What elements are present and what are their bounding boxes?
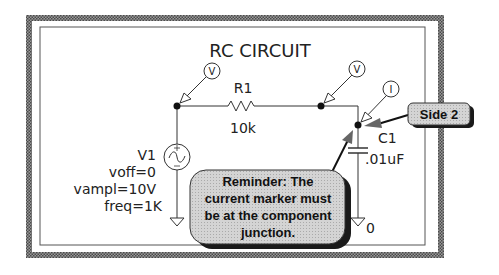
outer-frame: [26, 15, 194, 258]
c1-value-label: .01uF: [365, 151, 404, 167]
reminder-callout: Reminder: The current marker must be at …: [190, 130, 353, 249]
voltage-marker-left[interactable]: V: [180, 63, 220, 103]
reminder-line-4: junction.: [240, 225, 295, 240]
reminder-line-2: current marker must: [205, 191, 332, 206]
ground-node-label: 0: [366, 220, 375, 236]
r1-name-label: R1: [234, 80, 253, 96]
current-marker[interactable]: I: [361, 81, 399, 122]
v1-param-freq: freq=1K: [104, 198, 163, 214]
v1-param-voff: voff=0: [109, 164, 156, 180]
voltage-marker-mid[interactable]: V: [324, 61, 365, 103]
sine-source-v1-icon: [164, 144, 190, 170]
reminder-line-3: be at the component: [204, 208, 332, 223]
voltage-marker-icon: V: [354, 64, 361, 75]
v1-param-vampl: vampl=10V: [74, 181, 157, 197]
r1-value-label: 10k: [230, 120, 257, 136]
resistor-r1-symbol: [228, 101, 257, 111]
v1-name-label: V1: [138, 147, 156, 163]
side2-callout-label: Side 2: [420, 107, 458, 122]
voltage-marker-icon: V: [209, 66, 216, 77]
ground-icon-right: [351, 218, 365, 226]
side2-callout: Side 2: [364, 103, 474, 128]
diagram-title: RC CIRCUIT: [209, 40, 311, 61]
current-marker-icon: I: [390, 84, 393, 95]
reminder-line-1: Reminder: The: [222, 174, 313, 189]
c1-name-label: C1: [378, 130, 397, 146]
ground-icon-left: [170, 218, 184, 226]
rc-circuit-schematic: RC CIRCUIT R1 10k V1 voff=0 vampl=10V fr…: [0, 0, 499, 275]
